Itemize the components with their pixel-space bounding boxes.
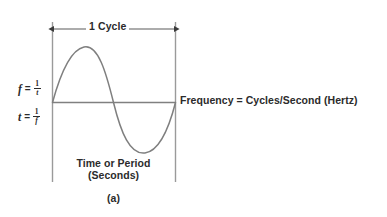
period-equation-variable: t (18, 111, 21, 123)
period-equation-denominator: f (34, 117, 39, 125)
frequency-equation: f = 1 t (18, 80, 41, 97)
period-axis-label: Time or Period (Seconds) (52, 158, 175, 182)
frequency-equation-variable: f (18, 83, 22, 95)
waveform-figure: 1 Cycle f = 1 t t = 1 f Frequency = Cycl… (0, 0, 387, 217)
cycle-span-label: 1 Cycle (86, 21, 129, 33)
frequency-equation-fraction: 1 t (34, 80, 41, 97)
frequency-equation-equals: = (25, 83, 31, 94)
sine-wave-path (53, 47, 176, 153)
period-equation: t = 1 f (18, 108, 40, 125)
period-equation-fraction: 1 f (33, 108, 40, 125)
period-equation-numerator: 1 (34, 108, 40, 116)
period-equation-equals: = (24, 111, 30, 122)
frequency-equation-numerator: 1 (34, 80, 40, 88)
period-axis-label-line1: Time or Period (52, 158, 175, 170)
waveform-diagram (0, 0, 387, 217)
frequency-equation-denominator: t (35, 89, 39, 97)
figure-letter-label: (a) (52, 193, 175, 205)
frequency-definition-label: Frequency = Cycles/Second (Hertz) (180, 95, 358, 107)
period-axis-label-line2: (Seconds) (52, 170, 175, 182)
